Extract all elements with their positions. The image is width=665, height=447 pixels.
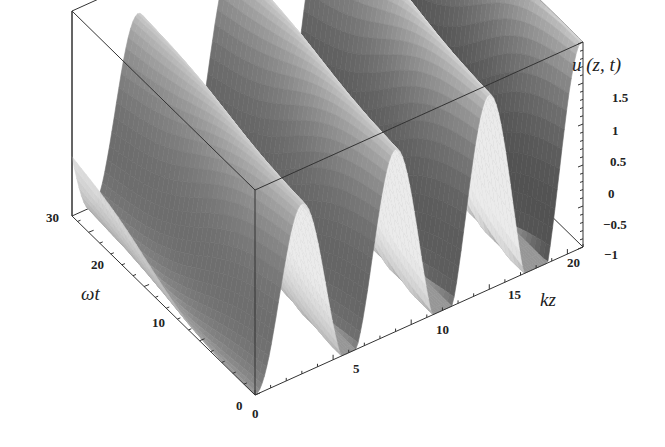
wt-axis-title: ωt [81,284,100,303]
wt-tick-0: 0 [236,399,243,412]
u-tick-neg-1: −1 [604,248,618,261]
surface-plot [0,0,665,447]
wt-tick-20: 20 [91,258,104,271]
u-tick-1: 1 [612,124,619,137]
wt-tick-10: 10 [152,316,165,329]
u-tick-0: 0 [608,187,615,200]
surface-mesh [72,0,583,395]
u-tick-0-5: 0.5 [610,155,626,168]
kz-tick-15: 15 [508,288,521,301]
u-axis-title: u (z, t) [572,55,621,74]
kz-tick-5: 5 [353,362,360,375]
wt-tick-30: 30 [46,211,59,224]
kz-axis-title: kz [540,290,556,309]
kz-tick-10: 10 [436,323,449,336]
kz-tick-0: 0 [252,407,259,420]
u-tick-1-5: 1.5 [612,91,628,104]
kz-tick-20: 20 [567,256,580,269]
u-tick-neg-0-5: −0.5 [603,218,627,231]
